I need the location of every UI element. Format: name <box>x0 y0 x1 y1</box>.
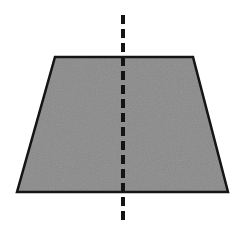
geometry-figure <box>0 0 245 229</box>
figure-canvas <box>0 0 245 229</box>
